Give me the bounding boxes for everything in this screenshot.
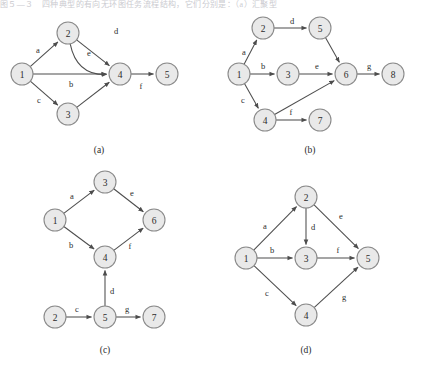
edge-b-n2-to-n5: d <box>274 16 307 28</box>
edge-label: a <box>70 191 74 201</box>
node-label: 4 <box>103 253 108 263</box>
edge-a-n4-to-n5: f <box>131 74 154 91</box>
node-a-4[interactable]: 4 <box>109 63 131 85</box>
edge-label: e <box>315 61 319 71</box>
edge-label: b <box>261 61 265 71</box>
edge-c-n2-to-n5: c <box>66 304 92 317</box>
edge-d-n1-to-n2: a <box>254 207 297 251</box>
edge-line <box>314 267 358 307</box>
node-label: 5 <box>366 254 371 264</box>
subfigure-caption-c: (c) <box>100 345 111 356</box>
edge-d-n2-to-n5: e <box>314 205 359 249</box>
node-label: 1 <box>244 254 249 264</box>
edge-c-n5-to-n7: g <box>116 304 141 317</box>
node-a-2[interactable]: 2 <box>57 22 79 44</box>
edge-line <box>275 81 335 115</box>
node-label: 4 <box>263 116 268 126</box>
edge-b-n1-to-n2: a <box>242 40 257 64</box>
node-c-6[interactable]: 6 <box>143 209 165 231</box>
edge-a-n1-to-n4: b <box>33 74 107 89</box>
figure-page: 图５―３ 四种典型的有向无环图任务流程结构，它们分别是：（a）汇聚型 abcde… <box>0 0 426 380</box>
edge-label: f <box>140 81 143 91</box>
edge-label: d <box>114 26 119 36</box>
edge-label: f <box>290 107 293 117</box>
subfigure-b: abcdefg12345678(b) <box>228 16 404 156</box>
node-d-2[interactable]: 2 <box>295 186 317 208</box>
edge-label: d <box>290 16 295 26</box>
node-d-1[interactable]: 1 <box>235 247 257 269</box>
edge-line <box>254 266 296 306</box>
node-b-2[interactable]: 2 <box>252 17 274 39</box>
edge-b-n6-to-n8: g <box>357 61 380 74</box>
edge-c-n3-to-n6: e <box>114 188 144 212</box>
node-b-3[interactable]: 3 <box>277 63 299 85</box>
node-d-3[interactable]: 3 <box>295 247 317 269</box>
edge-label: c <box>265 288 269 298</box>
node-b-8[interactable]: 8 <box>382 63 404 85</box>
node-c-3[interactable]: 3 <box>94 171 116 193</box>
edge-label: d <box>311 222 316 232</box>
node-label: 8 <box>391 70 396 80</box>
node-b-5[interactable]: 5 <box>309 17 331 39</box>
node-label: 4 <box>304 311 309 321</box>
edge-line <box>325 38 339 63</box>
node-b-4[interactable]: 4 <box>254 109 276 131</box>
edge-line <box>77 40 110 66</box>
subfigure-caption-a: (a) <box>94 145 105 156</box>
edge-label: g <box>342 292 347 302</box>
node-label: 5 <box>318 24 323 34</box>
node-b-7[interactable]: 7 <box>309 109 331 131</box>
edge-line <box>30 42 58 67</box>
edge-d-n3-to-n5: f <box>317 245 355 258</box>
edge-d-n4-to-n5: g <box>314 267 358 307</box>
node-b-6[interactable]: 6 <box>335 63 357 85</box>
node-label: 2 <box>66 29 71 39</box>
node-label: 1 <box>20 70 25 80</box>
edge-a-n2-to-n4: e <box>77 40 110 66</box>
edge-label: f <box>337 245 340 255</box>
node-d-4[interactable]: 4 <box>295 304 317 326</box>
node-label: 7 <box>318 116 323 126</box>
edge-line <box>244 84 258 109</box>
node-c-2[interactable]: 2 <box>44 306 66 328</box>
edge-label: b <box>270 245 274 255</box>
edge-label: e <box>130 188 134 198</box>
edge-d-n1-to-n4: c <box>254 266 296 306</box>
node-label: 4 <box>118 70 123 80</box>
edge-b-n1-to-n4: c <box>241 84 258 109</box>
edge-line <box>30 81 58 105</box>
edge-label: c <box>75 304 79 314</box>
edge-label: b <box>69 240 73 250</box>
edge-label: g <box>367 61 372 71</box>
node-a-3[interactable]: 3 <box>57 103 79 125</box>
node-label: 6 <box>152 216 157 226</box>
edge-b-n5-to-n6 <box>325 38 339 63</box>
node-c-5[interactable]: 5 <box>94 306 116 328</box>
edge-line <box>254 207 297 251</box>
edge-d-n2-to-n3: d <box>306 208 316 245</box>
subfigure-caption-d: (d) <box>300 345 311 356</box>
edge-b-n3-to-n6: e <box>299 61 333 74</box>
edge-line <box>244 40 257 64</box>
edge-b-n4-to-n7: f <box>276 107 307 120</box>
edge-label: c <box>241 95 245 105</box>
node-label: 3 <box>103 178 108 188</box>
edge-b-n4-to-n6 <box>275 81 335 115</box>
edge-label: f <box>129 241 132 251</box>
node-a-5[interactable]: 5 <box>156 63 178 85</box>
node-label: 5 <box>165 70 170 80</box>
edge-label: a <box>242 47 246 57</box>
subfigure-c: aebfdcg1364257(c) <box>44 171 165 356</box>
node-b-1[interactable]: 1 <box>228 63 250 85</box>
edge-d-n1-to-n3: b <box>257 245 293 258</box>
edge-c-n5-to-n4: d <box>105 271 115 307</box>
node-c-4[interactable]: 4 <box>94 246 116 268</box>
subfigure-a: abcdef12345(a) <box>11 22 178 156</box>
node-d-5[interactable]: 5 <box>357 247 379 269</box>
node-c-1[interactable]: 1 <box>44 209 66 231</box>
node-c-7[interactable]: 7 <box>143 306 165 328</box>
edge-label: g <box>125 304 130 314</box>
node-label: 2 <box>53 313 58 323</box>
node-label: 2 <box>261 24 266 34</box>
node-a-1[interactable]: 1 <box>11 63 33 85</box>
